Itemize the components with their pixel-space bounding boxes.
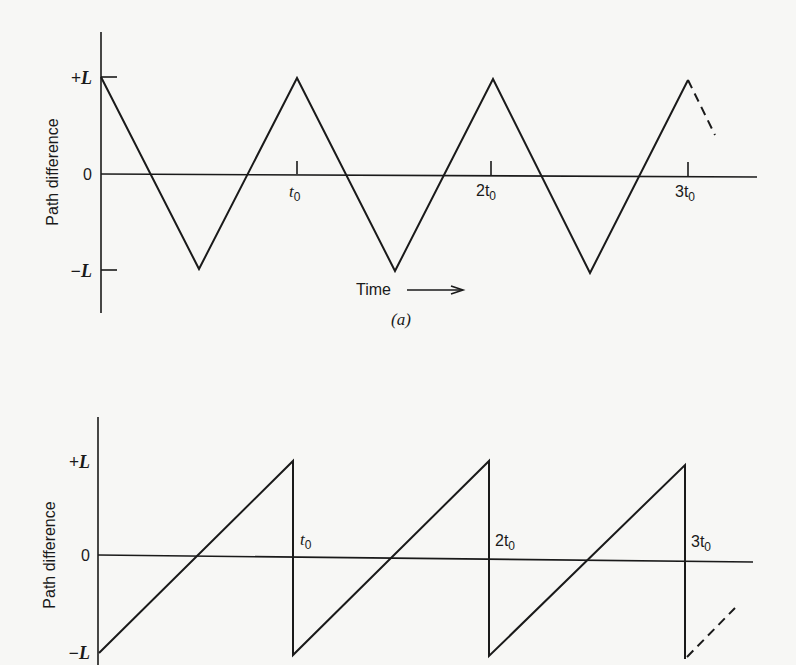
dashed-continuation (687, 608, 735, 657)
x-axis-label-time: Time (356, 281, 391, 298)
tick-label-3t0: 3t0 (691, 533, 711, 554)
dashed-continuation (688, 80, 715, 135)
x-axis (101, 174, 757, 177)
tick-label-zero: 0 (81, 547, 90, 564)
chart-b (98, 417, 753, 665)
tick-label-minusL: −L (70, 261, 92, 281)
figure: Path difference +L 0 −L t0 2t0 3t0 Time … (0, 0, 796, 665)
tick-label-plusL: +L (71, 68, 92, 88)
tick-label-3t0: 3t0 (675, 183, 695, 204)
y-axis-label: Path difference (44, 118, 61, 225)
tick-label-2t0: 2t0 (495, 532, 515, 553)
tick-label-t0: t0 (289, 182, 301, 204)
chart-a (101, 32, 757, 313)
caption-a: (a) (391, 310, 411, 329)
tick-label-zero: 0 (83, 166, 92, 183)
tick-label-2t0: 2t0 (476, 182, 496, 203)
tick-label-minusL: −L (68, 643, 90, 663)
tick-label-plusL: +L (69, 452, 90, 472)
tick-label-t0: t0 (300, 530, 312, 552)
y-axis-label: Path difference (41, 501, 58, 608)
